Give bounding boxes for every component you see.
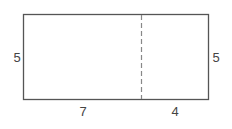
bottom-right-width-label: 4 (171, 104, 178, 119)
left-height-label: 5 (13, 50, 20, 65)
right-height-label: 5 (212, 50, 219, 65)
bottom-left-width-label: 7 (79, 104, 86, 119)
outer-rectangle (24, 15, 209, 100)
rectangle-diagram: 5 5 7 4 (0, 0, 232, 129)
